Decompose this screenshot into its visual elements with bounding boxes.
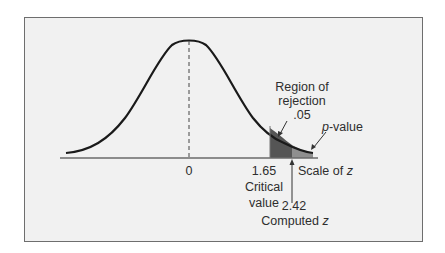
critical-value-word1: Critical: [245, 180, 283, 194]
computed-text: Computed: [261, 214, 319, 228]
curve-plot: [0, 0, 445, 253]
p-value-label: p-value: [322, 120, 363, 134]
p-value-var: p: [322, 120, 329, 134]
computed-z-number: 2.42: [282, 199, 306, 213]
region-line-1: Region of: [275, 80, 329, 94]
computed-var: z: [322, 214, 328, 228]
computed-z-arrow-head: [290, 159, 295, 165]
rejection-arrow: [280, 121, 287, 134]
critical-value-number: 1.65: [245, 164, 283, 178]
scale-var: z: [347, 164, 353, 178]
critical-value-label: 1.65 Critical value: [245, 164, 283, 210]
scale-of-z-label: Scale of z: [298, 164, 353, 178]
region-line-2: rejection: [275, 94, 329, 108]
mean-label: 0: [186, 164, 193, 178]
scale-text: Scale of: [298, 164, 343, 178]
p-value-arrow: [314, 132, 326, 147]
computed-z-label: Computed z: [261, 214, 328, 228]
critical-value-word2: value: [245, 196, 283, 210]
alpha-value: .05: [275, 108, 329, 122]
region-of-rejection-label: Region of rejection .05: [275, 80, 329, 122]
normal-curve-figure: 0 Region of rejection .05 p-value 1.65 C…: [0, 0, 445, 253]
p-value-text: -value: [329, 120, 363, 134]
